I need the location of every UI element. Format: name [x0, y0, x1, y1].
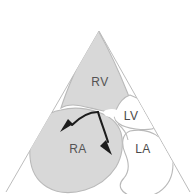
chamber-group	[30, 31, 173, 194]
echo-sector-svg: RV LV RA LA	[0, 0, 195, 194]
chamber-rv-shape	[61, 31, 130, 112]
chamber-label-lv: LV	[124, 109, 139, 123]
chamber-label-la: LA	[135, 142, 150, 156]
echo-diagram-figure: RV LV RA LA	[0, 0, 195, 194]
chamber-label-rv: RV	[91, 75, 108, 89]
chamber-label-ra: RA	[69, 142, 86, 156]
